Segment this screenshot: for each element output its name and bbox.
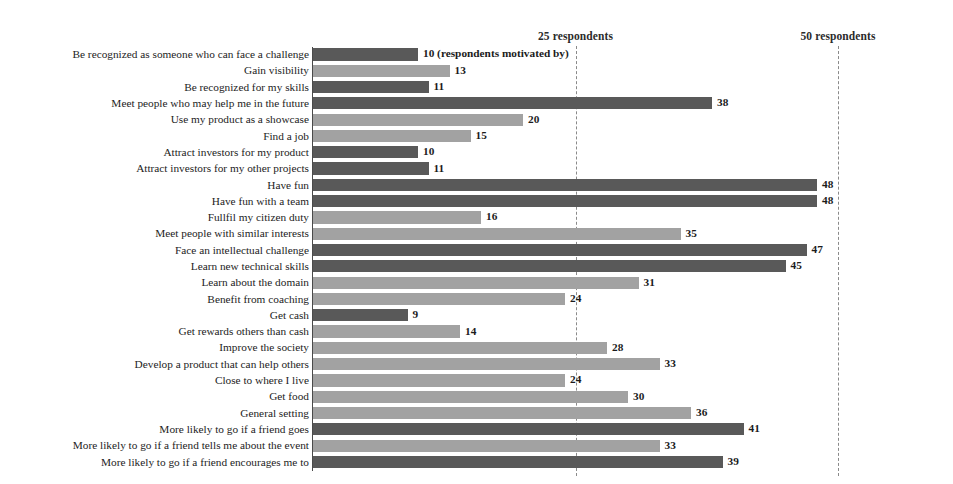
bar-row: More likely to go if a friend encourages…	[0, 454, 953, 470]
bar: 24	[313, 293, 565, 305]
bar-row: Improve the society28	[0, 340, 953, 356]
bar-row: Use my product as a showcase20	[0, 112, 953, 128]
category-label: Have fun with a team	[212, 196, 312, 207]
category-label: More likely to go if a friend goes	[159, 424, 312, 435]
bar-value-label: 36	[696, 407, 707, 418]
bar-value-label: 41	[749, 424, 760, 435]
bar-value-label: 14	[465, 326, 476, 337]
bar-fill	[313, 440, 660, 452]
bar-value-label: 47	[812, 244, 823, 255]
category-label: General setting	[240, 408, 312, 419]
gridline-label-25: 25 respondents	[538, 30, 613, 42]
bar-row: Meet people with similar interests35	[0, 226, 953, 242]
bar-value-label: 30	[633, 391, 644, 402]
bar-fill	[313, 325, 460, 337]
category-label: More likely to go if a friend encourages…	[101, 457, 312, 468]
bar-row: Get food30	[0, 389, 953, 405]
bar-fill	[313, 228, 681, 240]
bar-fill	[313, 211, 481, 223]
category-label: More likely to go if a friend tells me a…	[73, 441, 312, 452]
bar: 9	[313, 309, 408, 321]
bar: 48	[313, 179, 817, 191]
bar-value-label: 10 (respondents motivated by)	[423, 49, 569, 60]
bar: 38	[313, 97, 712, 109]
category-label: Fullfil my citizen duty	[208, 212, 312, 223]
bar: 15	[313, 130, 471, 142]
category-label: Improve the society	[219, 343, 312, 354]
category-label: Meet people who may help me in the futur…	[111, 98, 312, 109]
category-label: Find a job	[263, 131, 312, 142]
category-label: Attract investors for my product	[163, 147, 312, 158]
bar-value-label: 31	[644, 277, 655, 288]
category-label: Use my product as a showcase	[171, 115, 312, 126]
bar: 39	[313, 456, 723, 468]
bar: 11	[313, 81, 429, 93]
category-label: Meet people with similar interests	[155, 229, 312, 240]
bar-value-label: 9	[413, 310, 419, 321]
bar-value-label: 20	[528, 114, 539, 125]
bar-value-label: 48	[822, 179, 833, 190]
category-label: Be recognized for my skills	[184, 82, 312, 93]
bar: 33	[313, 440, 660, 452]
bar: 11	[313, 162, 429, 174]
bar-value-label: 11	[434, 81, 445, 92]
category-label: Attract investors for my other projects	[136, 164, 312, 175]
bar-row: Learn new technical skills45	[0, 259, 953, 275]
bar: 10 (respondents motivated by)	[313, 48, 418, 60]
category-label: Gain visibility	[244, 66, 312, 77]
bar-fill	[313, 309, 408, 321]
bar-value-label: 38	[717, 98, 728, 109]
category-label: Develop a product that can help others	[135, 359, 312, 370]
category-label: Get rewards others than cash	[179, 327, 313, 338]
bar-fill	[313, 195, 817, 207]
bar-row: Get rewards others than cash14	[0, 324, 953, 340]
bar-row: Have fun48	[0, 177, 953, 193]
bar-fill	[313, 260, 786, 272]
bar-value-label: 16	[486, 212, 497, 223]
bar-fill	[313, 114, 523, 126]
bar-row: Close to where I live24	[0, 373, 953, 389]
bar: 48	[313, 195, 817, 207]
bar: 35	[313, 228, 681, 240]
bar: 16	[313, 211, 481, 223]
bar: 13	[313, 65, 450, 77]
bar-row: Be recognized for my skills11	[0, 80, 953, 96]
category-label: Get food	[269, 392, 312, 403]
bar-fill	[313, 130, 471, 142]
bar-fill	[313, 293, 565, 305]
bar-fill	[313, 146, 418, 158]
bar-row: More likely to go if a friend goes41	[0, 422, 953, 438]
bar-row: Find a job15	[0, 128, 953, 144]
bar-fill	[313, 65, 450, 77]
bar: 30	[313, 391, 628, 403]
bar-fill	[313, 48, 418, 60]
bar-row: General setting36	[0, 406, 953, 422]
bar-fill	[313, 358, 660, 370]
bar-row: Fullfil my citizen duty16	[0, 210, 953, 226]
bar-rows: Be recognized as someone who can face a …	[0, 47, 953, 471]
bar-value-label: 33	[665, 440, 676, 451]
category-label: Face an intellectual challenge	[175, 245, 312, 256]
category-label: Close to where I live	[215, 375, 312, 386]
bar-value-label: 24	[570, 293, 581, 304]
bar: 31	[313, 277, 639, 289]
bar-row: Benefit from coaching24	[0, 291, 953, 307]
bar-value-label: 45	[791, 261, 802, 272]
bar-fill	[313, 179, 817, 191]
bar: 28	[313, 342, 607, 354]
category-label: Get cash	[270, 310, 312, 321]
bar: 10	[313, 146, 418, 158]
bar-fill	[313, 277, 639, 289]
bar-value-label: 28	[612, 342, 623, 353]
bar: 14	[313, 325, 460, 337]
bar: 45	[313, 260, 786, 272]
bar-fill	[313, 391, 628, 403]
bar: 20	[313, 114, 523, 126]
bar-row: Meet people who may help me in the futur…	[0, 96, 953, 112]
horizontal-bar-chart: 25 respondents50 respondents Be recogniz…	[0, 0, 953, 484]
bar-value-label: 35	[686, 228, 697, 239]
gridline-label-50: 50 respondents	[801, 30, 876, 42]
bar-fill	[313, 456, 723, 468]
bar-row: Attract investors for my product10	[0, 145, 953, 161]
bar-fill	[313, 97, 712, 109]
